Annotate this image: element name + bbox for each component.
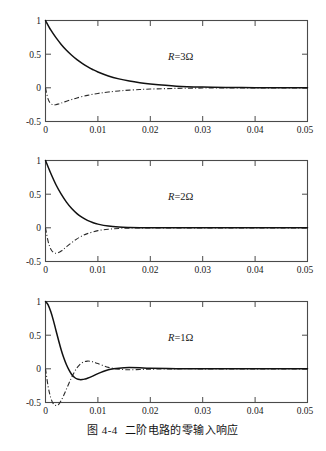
y-tick-label: 1 [36, 16, 41, 26]
x-tick-label: 0.05 [297, 125, 314, 135]
y-axis-labels-3: 1 0.5 0 -0.5 [26, 297, 41, 408]
figure-container: 1 0.5 0 -0.5 0 0.01 0.02 0.03 0.04 0.05 … [0, 0, 326, 451]
chart-svg-2: 1 0.5 0 -0.5 0 0.01 0.02 0.03 0.04 0.05 … [0, 140, 326, 280]
chart-panel-1: 1 0.5 0 -0.5 0 0.01 0.02 0.03 0.04 0.05 … [0, 0, 326, 140]
y-tick-label: -0.5 [26, 257, 41, 267]
panel-annotation-1: R=3Ω [167, 51, 194, 62]
y-tick-label: -0.5 [26, 398, 41, 408]
x-tick-label: 0.05 [297, 265, 314, 275]
caption-number: 图 4-4 [87, 424, 117, 436]
y-axis-labels-2: 1 0.5 0 -0.5 [26, 156, 41, 267]
series-group-2 [46, 161, 308, 254]
chart-panel-3: 1 0.5 0 -0.5 0 0.01 0.02 0.03 0.04 0.05 … [0, 281, 326, 421]
y-tick-label: 0 [36, 223, 41, 233]
y-tick-label: -0.5 [26, 117, 41, 127]
x-tick-label: 0.03 [194, 406, 211, 416]
annot-value: =2 [174, 191, 185, 202]
curve-current-2 [46, 228, 308, 253]
x-tick-label: 0.02 [142, 406, 159, 416]
x-tick-label: 0.04 [247, 125, 264, 135]
series-group-1 [46, 21, 308, 105]
y-axis-labels-1: 1 0.5 0 -0.5 [26, 16, 41, 127]
x-tick-label: 0.01 [90, 125, 107, 135]
x-tick-label: 0.01 [90, 406, 107, 416]
caption-text: 二阶电路的零输入响应 [125, 424, 239, 436]
x-tick-label: 0.02 [142, 125, 159, 135]
chart-panel-2: 1 0.5 0 -0.5 0 0.01 0.02 0.03 0.04 0.05 … [0, 140, 326, 280]
x-tick-marks-2 [98, 161, 255, 261]
x-tick-label: 0.01 [90, 265, 107, 275]
y-tick-label: 1 [36, 297, 41, 307]
x-tick-label: 0.04 [247, 265, 264, 275]
x-tick-label: 0 [43, 406, 48, 416]
annot-value: =3 [174, 51, 185, 62]
plot-frame-3 [46, 302, 308, 403]
x-axis-labels-1: 0 0.01 0.02 0.03 0.04 0.05 [43, 125, 313, 135]
x-tick-label: 0.02 [142, 265, 159, 275]
x-tick-label: 0.03 [194, 265, 211, 275]
panel-annotation-3: R=1Ω [167, 332, 194, 343]
x-axis-labels-2: 0 0.01 0.02 0.03 0.04 0.05 [43, 265, 313, 275]
series-group-3 [46, 302, 308, 406]
x-tick-label: 0 [43, 265, 48, 275]
y-tick-label: 1 [36, 156, 41, 166]
x-tick-label: 0.04 [247, 406, 264, 416]
annot-unit: Ω [186, 191, 194, 202]
x-tick-label: 0 [43, 125, 48, 135]
y-tick-label: 0 [36, 364, 41, 374]
x-tick-label: 0.03 [194, 125, 211, 135]
y-tick-label: 0.5 [29, 331, 41, 341]
annot-unit: Ω [186, 332, 194, 343]
x-axis-labels-3: 0 0.01 0.02 0.03 0.04 0.05 [43, 406, 313, 416]
plot-frame-2 [46, 161, 308, 262]
x-tick-marks-1 [98, 21, 255, 121]
plot-frame-1 [46, 21, 308, 122]
annot-unit: Ω [186, 51, 194, 62]
y-tick-label: 0.5 [29, 50, 41, 60]
y-tick-marks-3 [46, 302, 307, 403]
panel-annotation-2: R=2Ω [167, 191, 194, 202]
curve-current-3 [46, 361, 308, 405]
figure-caption: 图 4-4二阶电路的零输入响应 [0, 421, 326, 437]
y-tick-marks-1 [46, 21, 307, 122]
y-tick-label: 0 [36, 83, 41, 93]
y-tick-marks-2 [46, 161, 307, 262]
x-tick-label: 0.05 [297, 406, 314, 416]
x-tick-marks-3 [98, 302, 255, 402]
chart-svg-3: 1 0.5 0 -0.5 0 0.01 0.02 0.03 0.04 0.05 … [0, 281, 326, 421]
chart-svg-1: 1 0.5 0 -0.5 0 0.01 0.02 0.03 0.04 0.05 … [0, 0, 326, 140]
annot-value: =1 [174, 332, 185, 343]
curve-current-1 [46, 88, 308, 105]
y-tick-label: 0.5 [29, 190, 41, 200]
